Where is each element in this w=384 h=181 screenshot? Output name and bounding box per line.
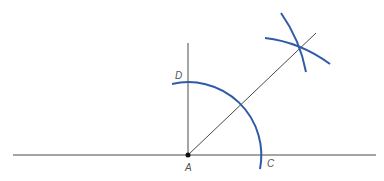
bisector-ray xyxy=(188,33,316,155)
label-d: D xyxy=(175,70,182,81)
main-arc xyxy=(172,82,261,169)
geometry-diagram: A C D xyxy=(0,0,384,181)
label-c: C xyxy=(267,158,275,169)
label-a: A xyxy=(184,162,192,173)
point-a xyxy=(186,153,191,158)
